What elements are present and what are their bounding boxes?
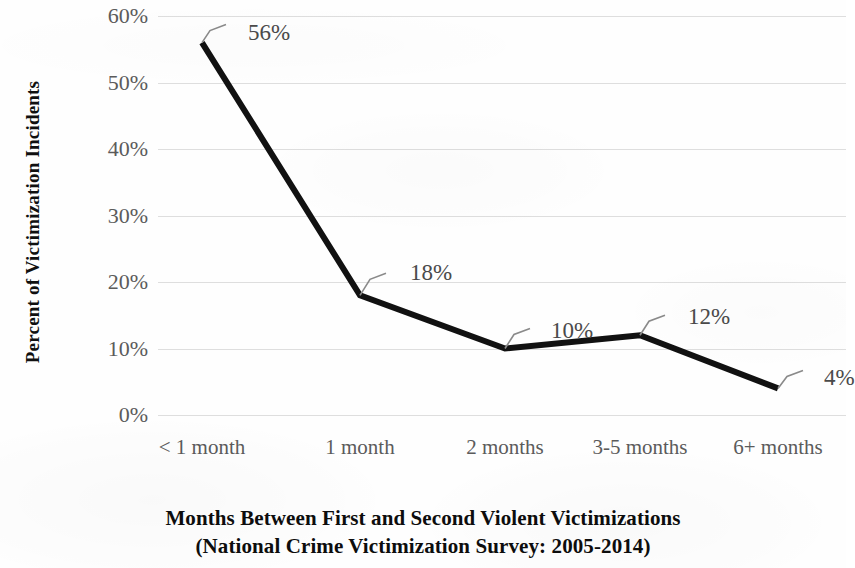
data-label-leader-line bbox=[360, 273, 386, 295]
y-axis-tick-labels: 60%50%40%30%20%10%0% bbox=[42, 0, 148, 430]
x-axis-tick-label: 6+ months bbox=[733, 437, 822, 458]
y-axis-tick-label: 60% bbox=[42, 5, 148, 27]
data-label-leader-line bbox=[202, 25, 226, 43]
x-axis-tick-label: 2 months bbox=[466, 437, 544, 458]
y-axis-tick-label: 10% bbox=[42, 338, 148, 360]
data-point-label: 18% bbox=[410, 261, 452, 284]
x-axis-tick-labels: < 1 month1 month2 months3-5 months6+ mon… bbox=[158, 437, 846, 471]
x-axis-tick-label: 3-5 months bbox=[592, 437, 687, 458]
x-axis-title-line-1: Months Between First and Second Violent … bbox=[165, 506, 680, 530]
x-axis-tick-label: 1 month bbox=[325, 437, 394, 458]
y-axis-tick-label: 30% bbox=[42, 205, 148, 227]
data-label-leader-line bbox=[778, 370, 803, 388]
y-axis-tick-label: 40% bbox=[42, 138, 148, 160]
data-point-label: 4% bbox=[824, 366, 855, 389]
y-axis-tick-label: 20% bbox=[42, 271, 148, 293]
data-series-line bbox=[158, 0, 846, 430]
y-axis-tick-label: 50% bbox=[42, 72, 148, 94]
data-point-label: 12% bbox=[688, 305, 730, 328]
data-point-label: 10% bbox=[551, 319, 593, 342]
x-axis-title: Months Between First and Second Violent … bbox=[0, 505, 846, 560]
x-axis-tick-label: < 1 month bbox=[159, 437, 246, 458]
data-label-leader-line bbox=[640, 315, 665, 335]
data-point-label: 56% bbox=[248, 21, 290, 44]
plot-area: 56%18%10%12%4% bbox=[158, 0, 846, 430]
y-axis-tick-label: 0% bbox=[42, 404, 148, 426]
series-polyline bbox=[202, 43, 778, 389]
y-axis-title: Percent of Victimization Incidents bbox=[22, 17, 44, 427]
x-axis-title-line-2: (National Crime Victimization Survey: 20… bbox=[0, 533, 846, 561]
